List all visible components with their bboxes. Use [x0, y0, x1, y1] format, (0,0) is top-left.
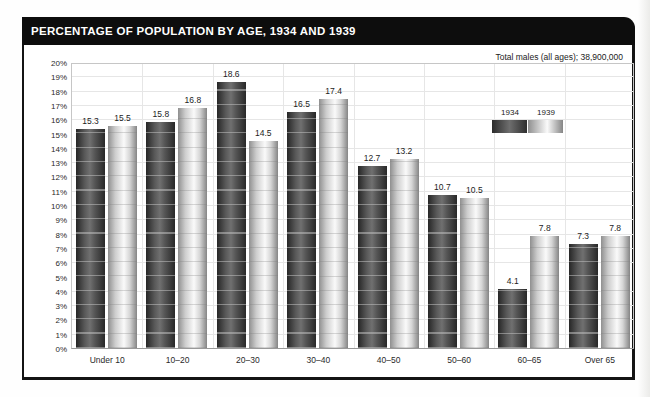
bar-1934 — [287, 112, 316, 348]
bar-value-label: 13.2 — [380, 146, 429, 156]
bar-value-label: 7.8 — [591, 223, 640, 233]
bar-1939 — [460, 198, 489, 348]
y-axis-tick-label: 19% — [24, 73, 67, 82]
vertical-gridline — [424, 64, 425, 348]
title-bar: PERCENTAGE OF POPULATION BY AGE, 1934 AN… — [22, 17, 635, 45]
plot-area: 15.315.5Under 1015.816.810–2018.614.520–… — [71, 63, 634, 349]
y-axis-tick-label: 1% — [24, 331, 67, 340]
bar-1939 — [601, 236, 630, 348]
vertical-gridline — [354, 64, 355, 348]
total-males-note: Total males (all ages); 38,900,000 — [495, 52, 623, 62]
legend: 1934 1939 — [492, 108, 564, 133]
bar-1939 — [530, 236, 559, 348]
bar-1939 — [249, 141, 278, 348]
x-axis-label: 40–50 — [354, 355, 424, 365]
bar-1934 — [358, 166, 387, 348]
bar-1934 — [217, 82, 246, 348]
vertical-gridline — [142, 64, 143, 348]
chart-title: PERCENTAGE OF POPULATION BY AGE, 1934 AN… — [31, 25, 356, 37]
y-axis-tick-label: 11% — [24, 188, 67, 197]
y-axis-tick-label: 6% — [24, 259, 67, 268]
bar-1939 — [319, 99, 348, 348]
x-axis-label: 10–20 — [142, 355, 212, 365]
y-axis-tick-label: 15% — [24, 131, 67, 140]
bar-1934 — [76, 129, 105, 348]
y-axis-tick-label: 4% — [24, 288, 67, 297]
y-axis-tick-label: 17% — [24, 102, 67, 111]
legend-swatch-1939 — [528, 120, 563, 133]
y-axis-tick-label: 3% — [24, 302, 67, 311]
bar-value-label: 10.5 — [450, 185, 499, 195]
bar-1934 — [146, 122, 175, 348]
bar-value-label: 16.8 — [168, 95, 217, 105]
bar-1934 — [569, 244, 598, 348]
bar-1934 — [498, 289, 527, 348]
legend-label-1934: 1934 — [492, 108, 528, 120]
y-axis-labels: 20%19%18%17%16%15%14%13%12%11%10%9%8%7%6… — [24, 45, 67, 380]
y-axis-tick-label: 16% — [24, 116, 67, 125]
y-axis-tick-label: 10% — [24, 202, 67, 211]
bar-1934 — [428, 195, 457, 348]
x-axis-label: 30–40 — [283, 355, 353, 365]
y-axis-tick-label: 20% — [24, 59, 67, 68]
legend-labels: 1934 1939 — [492, 108, 564, 120]
bar-value-label: 14.5 — [239, 128, 288, 138]
bar-1939 — [108, 126, 137, 348]
y-axis-tick-label: 12% — [24, 173, 67, 182]
bar-1939 — [178, 108, 207, 348]
x-axis-label: Over 65 — [565, 355, 635, 365]
y-axis-tick-label: 7% — [24, 245, 67, 254]
y-axis-tick-label: 0% — [24, 345, 67, 354]
bar-1939 — [390, 159, 419, 348]
x-axis-label: Under 10 — [72, 355, 142, 365]
bar-value-label: 18.6 — [207, 69, 256, 79]
legend-swatches — [492, 120, 564, 133]
y-axis-tick-label: 18% — [24, 88, 67, 97]
x-axis-label: 60–65 — [494, 355, 564, 365]
vertical-gridline — [565, 64, 566, 348]
y-axis-tick-label: 14% — [24, 145, 67, 154]
bar-value-label: 17.4 — [309, 86, 358, 96]
vertical-gridline — [213, 64, 214, 348]
y-axis-tick-label: 9% — [24, 216, 67, 225]
y-axis-tick-label: 13% — [24, 159, 67, 168]
chart-panel: PERCENTAGE OF POPULATION BY AGE, 1934 AN… — [22, 17, 635, 380]
y-axis-tick-label: 8% — [24, 231, 67, 240]
vertical-gridline — [494, 64, 495, 348]
x-axis-label: 20–30 — [213, 355, 283, 365]
legend-swatch-1934 — [492, 120, 527, 133]
y-axis-tick-label: 5% — [24, 274, 67, 283]
y-axis-tick-label: 2% — [24, 316, 67, 325]
legend-label-1939: 1939 — [528, 108, 564, 120]
x-axis-label: 50–60 — [424, 355, 494, 365]
chart-body: Total males (all ages); 38,900,000 20%19… — [22, 45, 635, 380]
